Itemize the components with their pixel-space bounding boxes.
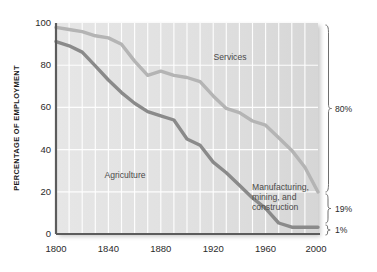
bracket-services <box>326 25 332 192</box>
bracket-label-services: 80% <box>335 104 353 114</box>
annotation-agriculture: Agriculture <box>104 170 145 180</box>
bracket-agriculture <box>326 225 331 235</box>
x-tick-1920: 1920 <box>203 243 224 254</box>
bracket-label-manufacturing: 19% <box>335 204 353 214</box>
annotation-manufacturing-line3: construction <box>252 202 299 212</box>
chart-container: 0 20 40 60 80 100 1800 1840 1880 1920 19… <box>0 0 377 272</box>
annotation-services: Services <box>214 52 247 62</box>
right-bracket-labels: 80% 19% 1% <box>335 104 353 236</box>
bracket-label-agriculture: 1% <box>335 225 348 235</box>
y-tick-40: 40 <box>40 144 51 155</box>
y-axis-title: PERCENTAGE OF EMPLOYMENT <box>12 65 21 191</box>
y-tick-80: 80 <box>40 59 51 70</box>
x-tick-1880: 1880 <box>150 243 171 254</box>
y-tick-20: 20 <box>40 186 51 197</box>
annotation-manufacturing-line1: Manufacturing, <box>252 182 309 192</box>
annotation-manufacturing-line2: mining, and <box>252 192 297 202</box>
x-tick-1960: 1960 <box>255 243 276 254</box>
x-tick-1840: 1840 <box>98 243 119 254</box>
y-tick-100: 100 <box>35 17 51 28</box>
employment-share-chart: 0 20 40 60 80 100 1800 1840 1880 1920 19… <box>0 0 377 272</box>
x-tick-1800: 1800 <box>45 243 66 254</box>
x-tick-2000: 2000 <box>305 243 326 254</box>
y-axis-tick-labels: 0 20 40 60 80 100 <box>35 17 51 239</box>
right-bracket-group <box>326 25 332 235</box>
bracket-manufacturing <box>326 194 331 223</box>
y-tick-0: 0 <box>46 228 51 239</box>
y-tick-60: 60 <box>40 101 51 112</box>
x-axis-tick-labels: 1800 1840 1880 1920 1960 2000 <box>45 243 326 254</box>
